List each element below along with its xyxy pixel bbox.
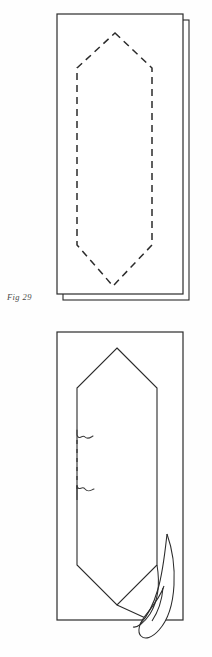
fig30-front-panel (57, 332, 183, 620)
figure-29-caption: Fig 29 (7, 292, 32, 302)
figure-30: Fig 30 (0, 320, 212, 657)
fig29-front-panel (57, 14, 183, 294)
figure-29: Fig 29 (0, 0, 212, 320)
pattern-plate: Fig 29 Fig 30 (0, 0, 212, 657)
figure-29-drawing (0, 0, 212, 320)
figure-30-drawing (0, 320, 212, 657)
